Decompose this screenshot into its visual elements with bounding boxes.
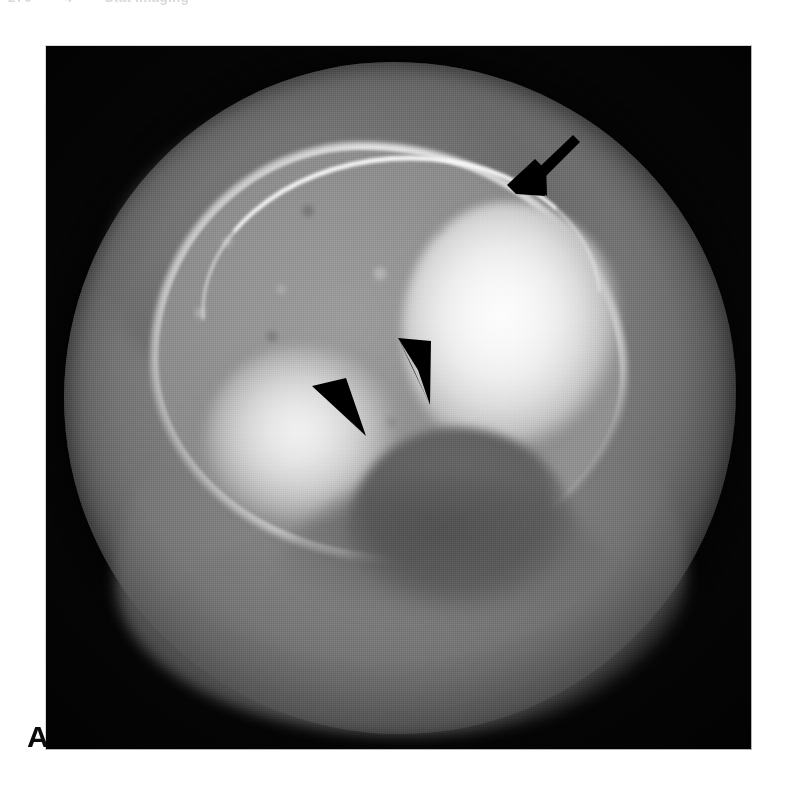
arrow-cortical-break-icon	[507, 135, 580, 196]
figure-panel-label: A	[27, 722, 49, 752]
ct-subchondral-shadow	[278, 476, 608, 626]
ct-fascial-striations	[166, 516, 666, 716]
ct-bone-medullary-cavity	[158, 150, 620, 554]
arrowhead-left-margin-icon	[312, 378, 366, 436]
ct-sclerotic-lesion	[402, 202, 628, 460]
ct-intercondylar-notch	[346, 428, 576, 618]
arrowhead-right-margin-icon	[398, 338, 431, 405]
ct-soft-tissue-envelope	[64, 62, 736, 734]
ct-secondary-dense-focus	[204, 346, 400, 532]
ct-air-background	[46, 46, 751, 749]
ct-bone-cortical-rim	[150, 142, 628, 562]
ct-scan-image	[45, 45, 752, 750]
ct-subcutaneous-fat-rim	[76, 74, 724, 722]
ct-vignette	[46, 46, 751, 749]
annotation-overlay	[46, 46, 752, 750]
ct-anterior-soft-tissue	[106, 86, 626, 416]
ct-posterior-muscle	[116, 346, 686, 736]
ct-trabecular-texture	[164, 156, 614, 548]
ct-anterior-cortical-line	[191, 142, 600, 320]
figure-panel-a: A	[0, 0, 791, 789]
ct-film-grain	[46, 46, 751, 749]
